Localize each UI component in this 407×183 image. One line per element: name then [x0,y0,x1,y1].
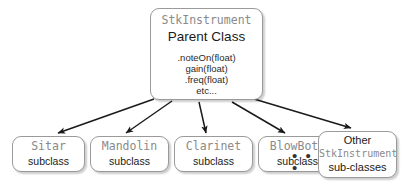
parent-class-name: StkInstrument [151,13,262,27]
ellipsis-more-subclasses: • • • [292,150,316,164]
class-diagram-canvas: StkInstrument Parent Class .noteOn(float… [0,0,407,183]
parent-method-list: .noteOn(float) gain(float) .freq(float) … [151,52,262,96]
method-item: gain(float) [151,63,262,74]
arrow-to-blowbotl [232,102,285,133]
method-item: .noteOn(float) [151,52,262,63]
other-subclasses-node[interactable]: Other StkInstrument sub-classes [318,131,397,178]
arrow-to-mandolin [126,101,172,133]
other-base-class-name: StkInstrument [319,147,396,160]
arrow-to-other [254,99,351,128]
parent-class-node[interactable]: StkInstrument Parent Class .noteOn(float… [150,8,263,100]
arrow-to-clarinet [199,102,206,133]
subclass-role: subclass [91,154,168,168]
other-label-bottom: sub-classes [319,160,396,174]
arrow-to-sitar [58,99,154,133]
method-item: .freq(float) [151,74,262,85]
subclass-node-clarinet[interactable]: Clarinet subclass [174,136,253,172]
subclass-name: Mandolin [91,139,168,154]
parent-class-role: Parent Class [151,28,262,45]
other-label-top: Other [319,133,396,147]
subclass-name: Clarinet [175,139,252,154]
subclass-role: subclass [13,154,84,168]
subclass-node-mandolin[interactable]: Mandolin subclass [90,136,169,172]
subclass-role: subclass [175,154,252,168]
method-item: etc... [151,85,262,96]
subclass-name: Sitar [13,139,84,154]
subclass-node-sitar[interactable]: Sitar subclass [12,136,85,172]
